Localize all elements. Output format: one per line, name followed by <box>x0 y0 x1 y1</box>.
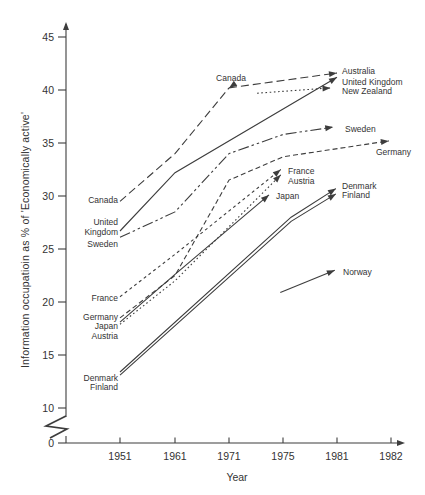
x-tick-label: 1971 <box>217 450 241 462</box>
label-right-japan: Japan <box>276 191 299 201</box>
label-left-japan: Japan <box>95 321 118 331</box>
arrowhead-sweden <box>325 124 334 131</box>
label-left-france: France <box>92 293 119 303</box>
plot-area: 0101520253035404519511961197119751981198… <box>0 0 425 495</box>
y-tick-label: 35 <box>42 137 54 149</box>
series-line-new-zealand <box>257 88 330 93</box>
y-axis-break <box>46 416 67 438</box>
x-tick-label: 1951 <box>108 450 132 462</box>
label-left-canada: Canada <box>88 195 118 205</box>
x-axis-title: Year <box>226 471 247 483</box>
label-left-united: United <box>93 217 118 227</box>
label-right-new-zealand: New Zealand <box>342 86 392 96</box>
label-right-australia: Australia <box>342 66 375 76</box>
x-tick-label: 1982 <box>379 450 403 462</box>
y-tick-label: 10 <box>42 402 54 414</box>
label-left-sweden: Sweden <box>87 239 118 249</box>
y-tick-label: 25 <box>42 243 54 255</box>
y-tick-label: 30 <box>42 190 54 202</box>
arrowhead-new-zealand <box>322 85 330 92</box>
y-axis-title: Information occupatioin as % of 'Economi… <box>19 112 31 368</box>
y-tick-label: 0 <box>48 437 54 449</box>
arrowhead-germany <box>380 138 389 145</box>
label-left-kingdom: Kingdom <box>84 227 118 237</box>
label-right-finland: Finland <box>342 190 370 200</box>
series-line-germany <box>120 141 389 318</box>
label-right-sweden: Sweden <box>345 124 376 134</box>
y-tick-label: 15 <box>42 349 54 361</box>
label-right-france: France <box>288 166 315 176</box>
label-right-germany: Germany <box>376 147 412 157</box>
x-tick-label: 1961 <box>163 450 187 462</box>
series-line-norway <box>280 270 335 292</box>
series-line-japan <box>120 195 269 322</box>
series-line-canada <box>120 88 229 201</box>
y-tick-label: 45 <box>42 31 54 43</box>
series-line-finland <box>120 194 336 375</box>
arrowhead-denmark <box>328 186 338 195</box>
label-left-austria: Austria <box>92 331 119 341</box>
label-top-canada: Canada <box>216 73 246 83</box>
x-tick-label: 1981 <box>325 450 349 462</box>
line-chart-figure: 0101520253035404519511961197119751981198… <box>0 0 425 495</box>
y-tick-label: 40 <box>42 84 54 96</box>
x-tick-label: 1975 <box>271 450 295 462</box>
series-line-denmark <box>120 189 336 372</box>
label-right-austria: Austria <box>288 176 315 186</box>
y-axis-arrow-icon <box>63 22 69 30</box>
y-tick-label: 20 <box>42 296 54 308</box>
arrowhead-norway <box>326 267 336 276</box>
label-left-finland: Finland <box>90 382 118 392</box>
series-line-france <box>120 170 281 297</box>
label-right-norway: Norway <box>343 267 373 277</box>
x-axis-arrow-icon <box>397 440 405 446</box>
arrowhead-france <box>273 167 283 177</box>
